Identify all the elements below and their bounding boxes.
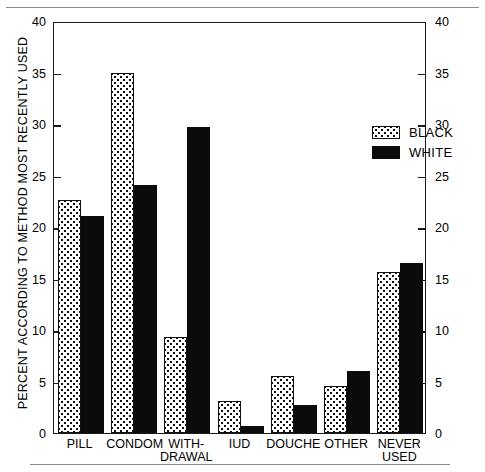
bar-black-4: [271, 376, 294, 433]
x-axis-category-label: PILL: [53, 438, 106, 451]
legend-swatch-dotted-icon: [372, 126, 400, 139]
x-axis-category-label: OTHER: [319, 438, 372, 451]
y-axis-tick-label-left: 30: [8, 119, 46, 132]
y-axis-tick-label-right: 20: [435, 222, 475, 235]
chart-figure: PERCENT ACCORDING TO METHOD MOST RECENTL…: [0, 0, 485, 472]
bar-white-5: [347, 371, 370, 433]
bar-black-6: [377, 272, 400, 433]
legend-item-white: WHITE: [372, 142, 453, 162]
bar-white-1: [134, 185, 157, 433]
y-axis-tick-label-left: 25: [8, 171, 46, 184]
bar-white-2: [187, 127, 210, 433]
y-axis-tick-right: [418, 228, 425, 229]
y-axis-tick-label-right: 30: [435, 119, 475, 132]
bar-white-0: [81, 216, 104, 433]
bar-white-6: [400, 263, 423, 433]
y-axis-tick-label-right: 15: [435, 274, 475, 287]
bar-white-4: [294, 405, 317, 433]
y-axis-tick-label-left: 5: [8, 377, 46, 390]
x-axis-category-label: WITH- DRAWAL: [160, 438, 213, 464]
bottom-divider-rule: [30, 464, 450, 465]
y-axis-tick-right: [418, 74, 425, 75]
bar-black-2: [164, 337, 187, 433]
y-axis-tick-label-right: 25: [435, 171, 475, 184]
bar-black-1: [111, 73, 134, 434]
y-axis-tick-label-right: 40: [435, 16, 475, 29]
y-axis-tick-label-right: 0: [435, 428, 475, 441]
y-axis-tick-label-left: 0: [8, 428, 46, 441]
bar-black-3: [218, 401, 241, 433]
y-axis-tick-left: [54, 125, 61, 126]
x-axis-category-label: IUD: [213, 438, 266, 451]
x-axis-category-label: NEVER USED: [373, 438, 426, 464]
y-axis-tick-label-right: 10: [435, 325, 475, 338]
y-axis-tick-label-right: 35: [435, 68, 475, 81]
bar-white-3: [241, 426, 264, 433]
y-axis-tick-label-left: 40: [8, 16, 46, 29]
top-divider-rule: [6, 7, 479, 8]
bar-black-5: [324, 386, 347, 433]
legend-swatch-solid-icon: [372, 146, 400, 159]
x-axis-category-label: DOUCHE: [266, 438, 319, 451]
y-axis-tick-label-left: 15: [8, 274, 46, 287]
x-axis-category-label: CONDOM: [106, 438, 159, 451]
y-axis-tick-right: [418, 177, 425, 178]
y-axis-tick-label-left: 10: [8, 325, 46, 338]
bar-black-0: [58, 200, 81, 433]
y-axis-tick-label-right: 5: [435, 377, 475, 390]
legend-label-white: WHITE: [409, 145, 452, 160]
y-axis-tick-label-left: 20: [8, 222, 46, 235]
y-axis-tick-left: [54, 177, 61, 178]
y-axis-tick-left: [54, 74, 61, 75]
y-axis-tick-label-left: 35: [8, 68, 46, 81]
plot-area: BLACK WHITE: [53, 22, 426, 434]
